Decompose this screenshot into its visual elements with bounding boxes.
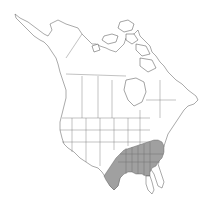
arctic-island: [118, 20, 134, 32]
range-map: [0, 0, 211, 202]
florida-peninsula: [146, 176, 154, 194]
arctic-island: [102, 34, 118, 44]
